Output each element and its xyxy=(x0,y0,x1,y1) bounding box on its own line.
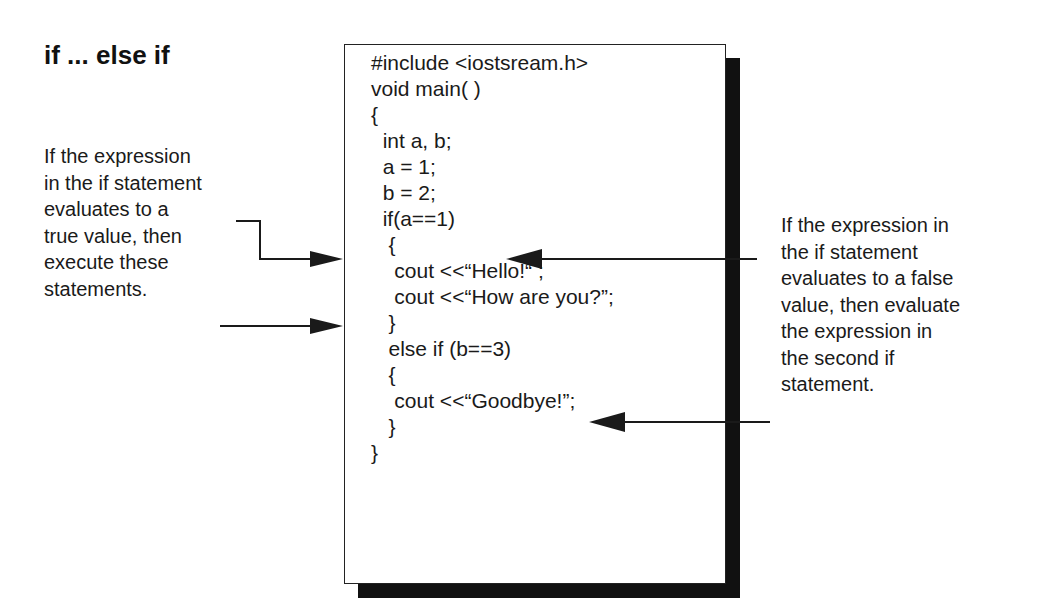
right-annotation-line: the expression in xyxy=(781,318,960,345)
code-line-main: void main( ) xyxy=(371,76,481,102)
left-annotation-line: in the if statement xyxy=(44,170,202,197)
arrowhead-right-icon xyxy=(310,318,343,334)
code-line-if-close: } xyxy=(371,310,396,336)
code-line-assign-b: b = 2; xyxy=(371,180,436,206)
arrow-true-branch-upper xyxy=(236,221,343,267)
left-annotation-line: execute these xyxy=(44,249,202,276)
left-annotation-line: evaluates to a xyxy=(44,196,202,223)
right-annotation-line: evaluates to a false xyxy=(781,265,960,292)
left-annotation-line: true value, then xyxy=(44,223,202,250)
left-annotation-line: If the expression xyxy=(44,143,202,170)
code-line-how-are-you: cout <<“How are you?”; xyxy=(371,284,614,310)
code-line-goodbye: cout <<“Goodbye!”; xyxy=(371,388,575,414)
code-line-else-open: { xyxy=(371,362,396,388)
code-line-include: #include <iostsream.h> xyxy=(371,50,588,76)
right-annotation: If the expression in the if statement ev… xyxy=(781,212,960,398)
code-line-close-brace: } xyxy=(371,440,378,466)
code-line-if: if(a==1) xyxy=(371,206,455,232)
code-line-if-open: { xyxy=(371,232,396,258)
left-annotation: If the expression in the if statement ev… xyxy=(44,143,202,302)
arrowhead-right-icon xyxy=(310,251,343,267)
code-line-open-brace: { xyxy=(371,102,378,128)
code-line-declare: int a, b; xyxy=(371,128,452,154)
code-line-assign-a: a = 1; xyxy=(371,154,436,180)
arrow-true-branch-lower xyxy=(220,318,343,334)
code-line-else-close: } xyxy=(371,414,396,440)
right-annotation-line: value, then evaluate xyxy=(781,292,960,319)
right-annotation-line: the if statement xyxy=(781,239,960,266)
right-annotation-line: statement. xyxy=(781,371,960,398)
diagram-title: if ... else if xyxy=(44,40,170,71)
code-box: #include <iostsream.h> void main( ) { in… xyxy=(344,44,726,584)
right-annotation-line: the second if xyxy=(781,345,960,372)
left-annotation-line: statements. xyxy=(44,276,202,303)
code-line-else-if: else if (b==3) xyxy=(371,336,511,362)
code-line-hello: cout <<“Hello!“ ; xyxy=(371,258,544,284)
right-annotation-line: If the expression in xyxy=(781,212,960,239)
